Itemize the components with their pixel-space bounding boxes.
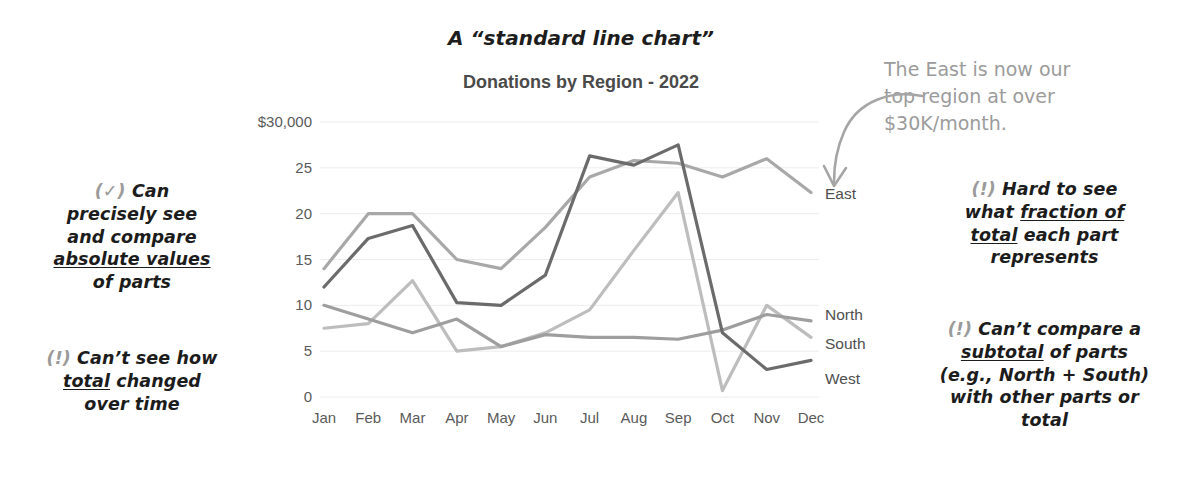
series-label-south: South xyxy=(825,335,866,352)
y-axis-tick-label: 20 xyxy=(295,205,312,222)
note-emphasis: subtotal xyxy=(961,342,1044,362)
x-axis-tick-label: Mar xyxy=(400,409,426,426)
series-line-north xyxy=(324,305,811,346)
chart-title: Donations by Region - 2022 xyxy=(366,72,796,93)
note-text: each part xyxy=(1024,225,1119,245)
series-line-south xyxy=(324,193,811,391)
note-line: and compare xyxy=(16,226,248,249)
note-text: what xyxy=(965,202,1014,222)
note-text: changed xyxy=(116,371,201,391)
x-axis-tick-label: Jul xyxy=(580,409,599,426)
series-labels: EastNorthSouthWest xyxy=(825,185,866,388)
gridlines xyxy=(320,122,819,397)
note-line: with other parts or xyxy=(902,386,1187,409)
note-can-compare-absolute-values: (✓) Can precisely see and compare absolu… xyxy=(16,180,248,294)
note-line: what fraction of xyxy=(917,201,1172,224)
warning-marker: (!) xyxy=(47,348,71,368)
x-axis-tick-label: Oct xyxy=(711,409,735,426)
chart-infographic: A “standard line chart” Donations by Reg… xyxy=(0,0,1191,487)
note-line: subtotal of parts xyxy=(902,341,1187,364)
note-line: (!) Can’t compare a xyxy=(902,318,1187,341)
series-label-east: East xyxy=(825,185,857,202)
note-line: absolute values xyxy=(16,248,248,271)
note-line: (!) Hard to see xyxy=(917,178,1172,201)
line-chart: 0510152025$30,000 JanFebMarAprMayJunJulA… xyxy=(256,104,876,434)
x-axis-tick-label: Dec xyxy=(798,409,825,426)
note-emphasis: fraction of xyxy=(1020,202,1124,222)
x-axis-tick-label: Nov xyxy=(753,409,780,426)
series-lines xyxy=(324,145,811,391)
series-label-north: North xyxy=(825,306,863,323)
note-line: total each part xyxy=(917,224,1172,247)
callout-line-1: The East is now our xyxy=(884,56,1154,83)
note-line: (!) Can’t see how xyxy=(8,347,256,370)
note-line: precisely see xyxy=(16,203,248,226)
note-text: Can’t compare a xyxy=(978,319,1141,339)
y-axis-tick-label: 15 xyxy=(295,251,312,268)
note-line: total xyxy=(902,409,1187,432)
x-axis-tick-label: Apr xyxy=(445,409,468,426)
x-axis-tick-label: Jun xyxy=(533,409,557,426)
note-cant-see-total-change: (!) Can’t see how total changed over tim… xyxy=(8,347,256,415)
note-line: of parts xyxy=(16,271,248,294)
y-axis-tick-label: 10 xyxy=(295,296,312,313)
note-line: total changed xyxy=(8,370,256,393)
y-axis-tick-label: 0 xyxy=(304,388,312,405)
series-label-west: West xyxy=(825,370,861,387)
note-hard-to-see-fraction: (!) Hard to see what fraction of total e… xyxy=(917,178,1172,269)
note-text: of parts xyxy=(1050,342,1128,362)
y-axis-tick-label: $30,000 xyxy=(258,113,312,130)
note-emphasis: total xyxy=(970,225,1017,245)
note-line: (✓) Can xyxy=(16,180,248,203)
check-marker: (✓) xyxy=(95,181,126,201)
x-axis-tick-label: Feb xyxy=(355,409,381,426)
x-axis-labels: JanFebMarAprMayJunJulAugSepOctNovDec xyxy=(312,409,825,426)
warning-marker: (!) xyxy=(972,179,996,199)
note-emphasis: absolute values xyxy=(53,249,210,269)
note-emphasis: total xyxy=(63,371,110,391)
note-text: Can’t see how xyxy=(77,348,217,368)
note-line: over time xyxy=(8,393,256,416)
warning-marker: (!) xyxy=(948,319,972,339)
note-line: represents xyxy=(917,246,1172,269)
y-axis-tick-label: 25 xyxy=(295,159,312,176)
note-text: Hard to see xyxy=(1002,179,1117,199)
note-text: Can xyxy=(132,181,169,201)
note-cant-compare-subtotal: (!) Can’t compare a subtotal of parts (e… xyxy=(902,318,1187,432)
hand-title: A “standard line chart” xyxy=(366,25,796,51)
note-line: (e.g., North + South) xyxy=(902,364,1187,387)
x-axis-tick-label: Sep xyxy=(665,409,692,426)
x-axis-tick-label: Jan xyxy=(312,409,336,426)
y-axis-tick-label: 5 xyxy=(304,342,312,359)
y-axis-labels: 0510152025$30,000 xyxy=(258,113,312,405)
line-chart-svg: 0510152025$30,000 JanFebMarAprMayJunJulA… xyxy=(256,104,876,434)
x-axis-tick-label: Aug xyxy=(621,409,648,426)
x-axis-tick-label: May xyxy=(487,409,516,426)
